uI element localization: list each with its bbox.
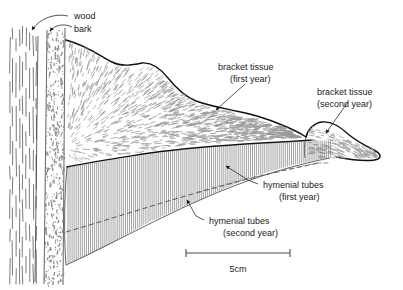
tubes-second-leader-line xyxy=(187,200,204,220)
bracket-first-leader-line xyxy=(216,84,245,110)
label-bracket-second-line1: bracket tissue xyxy=(317,87,373,97)
bark-band-region xyxy=(35,28,66,287)
label-bracket-first-line2: (first year) xyxy=(230,74,271,84)
label-tubes-first-line2: (first year) xyxy=(279,192,320,202)
wood-grain-region xyxy=(10,26,37,284)
hymenial-tubes-region xyxy=(65,141,331,266)
bracket-fungus-diagram: wood bark bracket tissue (first year) br… xyxy=(0,0,403,290)
label-bracket-first-line1: bracket tissue xyxy=(218,62,274,72)
scale-bar-label: 5cm xyxy=(229,264,246,274)
wood-leader-line xyxy=(32,15,68,30)
scale-bar: 5cm xyxy=(186,249,290,274)
figure-canvas: wood bark bracket tissue (first year) br… xyxy=(0,0,403,290)
label-wood: wood xyxy=(73,11,96,21)
label-bracket-second-line2: (second year) xyxy=(317,99,372,109)
label-tubes-second-line1: hymenial tubes xyxy=(209,216,270,226)
label-bark: bark xyxy=(74,24,92,34)
bracket-tissue-second-year xyxy=(304,122,380,161)
bark-leader-line xyxy=(50,25,72,31)
label-tubes-first-line1: hymenial tubes xyxy=(263,180,324,190)
label-tubes-second-line2: (second year) xyxy=(223,228,278,238)
